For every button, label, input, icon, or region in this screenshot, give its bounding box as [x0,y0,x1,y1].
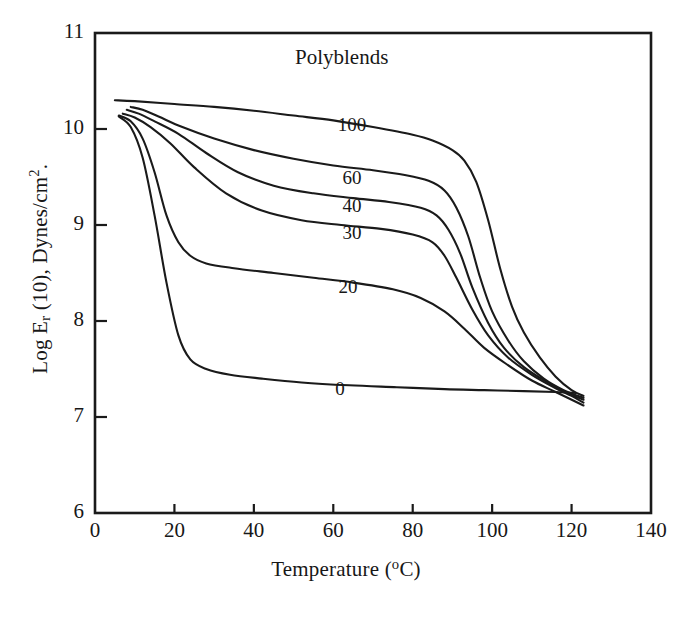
curve-40 [127,110,584,400]
x-axis-title-text: Temperature ( [271,557,392,581]
y-tick-label: 8 [50,307,84,332]
curve-label-20: 20 [324,276,372,298]
x-tick-label: 140 [628,518,674,543]
x-tick-label: 40 [231,518,277,543]
chart-figure: Polyblends 020406080100120140 67891011 1… [0,0,692,617]
curve-60 [131,107,584,398]
y-axis-subscript-r: r [37,316,53,321]
x-tick-label: 20 [151,518,197,543]
curve-label-60: 60 [328,167,376,189]
x-tick-label: 120 [549,518,595,543]
y-axis-title-wrapper: Log Er (10), Dynes/cm2. [26,9,54,529]
y-axis-title-tail: . [28,164,52,169]
x-tick-label: 100 [469,518,515,543]
x-axis-ticks [174,504,571,513]
y-tick-label: 7 [50,403,84,428]
data-curves [115,100,584,405]
y-tick-label: 6 [50,499,84,524]
curve-label-0: 0 [316,378,364,400]
curve-label-40: 40 [328,195,376,217]
curve-label-100: 100 [328,114,376,136]
y-axis-superscript-2: 2 [26,169,42,177]
curve-label-30: 30 [328,222,376,244]
x-tick-label: 80 [390,518,436,543]
x-tick-label: 60 [310,518,356,543]
y-axis-ticks [95,129,107,417]
y-tick-label: 9 [50,211,84,236]
x-axis-title: Temperature (oC) [0,556,692,582]
y-tick-label: 11 [50,19,84,44]
x-axis-title-tail: C) [399,557,420,581]
y-axis-title-lead: Log E [28,321,52,374]
y-axis-title: Log Er (10), Dynes/cm2. [26,164,54,374]
y-axis-title-mid: (10), Dynes/cm [28,177,52,316]
y-tick-label: 10 [50,115,84,140]
chart-title: Polyblends [295,45,388,70]
